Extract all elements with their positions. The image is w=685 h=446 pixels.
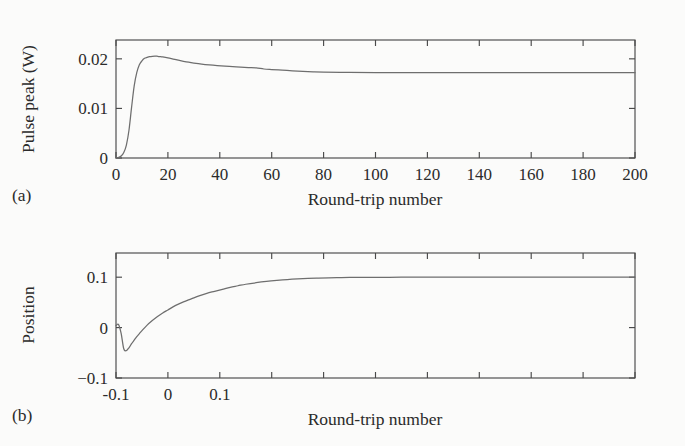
x-tick-label: 160 (518, 165, 544, 184)
plot-frame-b (116, 253, 635, 378)
x-tick-label: 60 (263, 165, 280, 184)
y-tick-label: 0.1 (87, 268, 108, 287)
x-tick-labels-a: 020406080100120140160180200 (112, 165, 648, 184)
x-tick-label: 0 (164, 385, 173, 404)
y-tick-label: 0 (100, 149, 109, 168)
y-tick-label: 0.02 (78, 50, 108, 69)
panel-b: -0.100.1 0.10−0.1 Round-trip number Posi… (0, 223, 685, 446)
figure-container: 020406080100120140160180200 00.010.02 Ro… (0, 0, 685, 446)
pulse-peak-curve (116, 56, 635, 158)
plot-a: 020406080100120140160180200 00.010.02 Ro… (0, 0, 685, 223)
y-tick-labels-b: 0.10−0.1 (77, 268, 108, 388)
x-tick-label: 140 (467, 165, 493, 184)
x-tick-label: 200 (622, 165, 648, 184)
y-axis-ticks-b (116, 277, 635, 378)
y-tick-label: 0.01 (78, 99, 108, 118)
panel-a: 020406080100120140160180200 00.010.02 Ro… (0, 0, 685, 223)
panel-tag-b: (b) (12, 405, 33, 425)
position-curve (116, 277, 635, 351)
x-axis-ticks-a (116, 40, 635, 158)
y-axis-title-b: Position (18, 286, 38, 344)
y-axis-ticks-a (116, 59, 635, 158)
x-tick-label: 20 (159, 165, 176, 184)
x-tick-label: 180 (570, 165, 596, 184)
x-tick-label: 100 (363, 165, 389, 184)
x-axis-ticks-b (116, 253, 635, 378)
x-tick-label: 40 (211, 165, 228, 184)
x-tick-label: 0.1 (209, 385, 230, 404)
panel-tag-a: (a) (12, 185, 32, 205)
y-tick-label: −0.1 (77, 369, 108, 388)
x-tick-label: 120 (415, 165, 441, 184)
x-tick-label: 80 (315, 165, 332, 184)
plot-frame-a (116, 40, 635, 158)
y-tick-labels-a: 00.010.02 (78, 50, 108, 168)
x-axis-title-a: Round-trip number (308, 189, 443, 209)
x-axis-title-b: Round-trip number (308, 409, 443, 429)
plot-b: -0.100.1 0.10−0.1 Round-trip number Posi… (0, 223, 685, 446)
y-axis-title-a: Pulse peak (W) (18, 45, 38, 153)
x-tick-labels-b: -0.100.1 (103, 385, 231, 404)
x-tick-label: 0 (112, 165, 121, 184)
y-tick-label: 0 (100, 319, 109, 338)
